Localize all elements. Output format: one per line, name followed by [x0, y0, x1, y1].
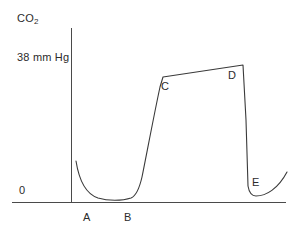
chart-canvas [0, 0, 301, 233]
y-axis-title-subscript: 2 [34, 17, 39, 26]
y-axis-tick-label-0: 0 [19, 185, 25, 196]
annotation-label-d: D [228, 70, 236, 81]
y-axis-tick-label-38: 38 mm Hg [17, 52, 69, 63]
annotation-label-a: A [83, 212, 91, 223]
annotation-label-e: E [252, 177, 260, 188]
capnography-chart: CO2 38 mm Hg 0 A B C D E [0, 0, 301, 233]
y-axis-title-text: CO [17, 12, 34, 24]
annotation-label-c: C [161, 81, 169, 92]
y-axis-title: CO2 [17, 13, 39, 24]
annotation-label-b: B [124, 212, 132, 223]
